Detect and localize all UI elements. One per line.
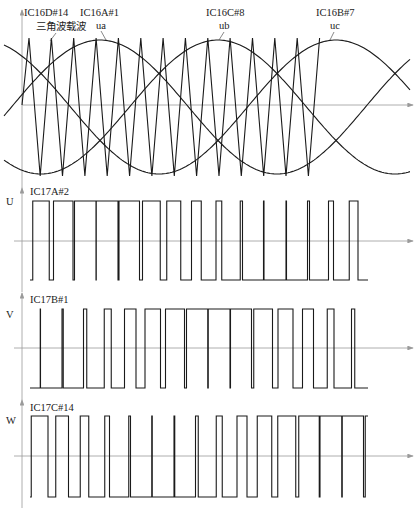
u-ic-label: IC17A#2 [30, 186, 69, 197]
uc-leader-line [330, 32, 334, 40]
w-ic-label: IC17C#14 [30, 402, 75, 413]
uc-ic-label: IC16B#7 [316, 7, 355, 18]
ua-leader-line [101, 31, 106, 40]
carrier-leader-line [50, 33, 56, 41]
ub-ic-label: IC16C#8 [206, 7, 245, 18]
sine-uc-wave [4, 40, 410, 174]
w-pwm-waveform [30, 416, 368, 497]
ua-ic-label: IC16A#1 [80, 7, 119, 18]
spwm-waveform-diagram: IC16D#14 三角波载波 IC16A#1 ua IC16C#8 ub IC1… [0, 0, 416, 510]
sine-ua-wave [4, 40, 410, 174]
ua-name-label: ua [96, 20, 106, 31]
uc-name-label: uc [330, 20, 340, 31]
w-channel-label: W [6, 415, 16, 426]
u-pwm-waveform [30, 201, 368, 280]
ub-leader-line [219, 32, 224, 40]
sine-ub-wave [4, 40, 410, 174]
carrier-ic-label: IC16D#14 [24, 7, 69, 18]
reference-panel: IC16D#14 三角波载波 IC16A#1 ua IC16C#8 ub IC1… [4, 7, 413, 188]
ub-name-label: ub [219, 20, 230, 31]
v-pwm-waveform [30, 309, 368, 388]
triangle-carrier-wave [22, 38, 320, 176]
u-channel-label: U [6, 196, 14, 207]
carrier-name-label: 三角波载波 [36, 20, 87, 32]
pwm-panel-v: V IC17B#1 [6, 293, 413, 400]
pwm-panel-w: W IC17C#14 [6, 400, 413, 508]
pwm-panel-u: U IC17A#2 [6, 186, 413, 292]
v-channel-label: V [6, 309, 14, 320]
v-ic-label: IC17B#1 [30, 294, 69, 305]
